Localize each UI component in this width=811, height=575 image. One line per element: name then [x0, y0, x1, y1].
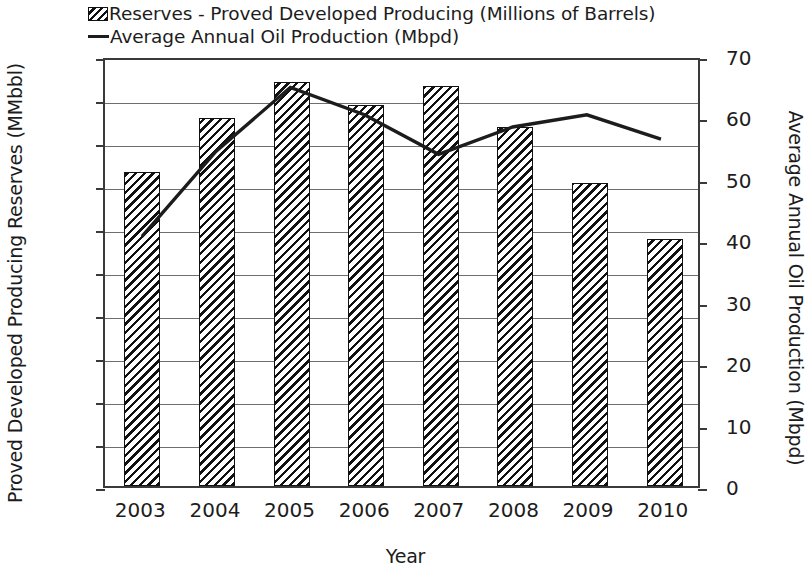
y-axis-right-tick-label: 50 — [726, 171, 796, 191]
gridline — [105, 318, 698, 319]
y-axis-right-tick-label: 20 — [726, 355, 796, 375]
gridline — [105, 361, 698, 362]
y-axis-right-tick — [698, 366, 707, 368]
line-series — [105, 60, 698, 486]
bar-2006 — [348, 105, 384, 486]
y-axis-left-tick — [96, 231, 105, 233]
y-axis-left-tick — [96, 360, 105, 362]
y-axis-right-tick-label: 60 — [726, 109, 796, 129]
y-axis-left-tick — [96, 403, 105, 405]
x-axis-tick-label-2006: 2006 — [324, 500, 404, 520]
bar-2010 — [647, 239, 683, 486]
y-axis-left-tick — [96, 446, 105, 448]
y-axis-right-tick — [698, 182, 707, 184]
y-axis-right-tick-label: 30 — [726, 294, 796, 314]
y-axis-left-tick — [96, 274, 105, 276]
bar-2005 — [274, 82, 310, 486]
y-axis-left-tick — [96, 102, 105, 104]
y-axis-left-tick — [96, 145, 105, 147]
y-axis-left-tick — [96, 59, 105, 61]
gridline — [105, 232, 698, 233]
gridline — [105, 189, 698, 190]
y-axis-right-tick — [698, 243, 707, 245]
bar-2004 — [199, 118, 235, 486]
chart-figure: Reserves - Proved Developed Producing (M… — [0, 0, 811, 575]
legend-item-reserves-label: Reserves - Proved Developed Producing (M… — [109, 3, 655, 24]
y-axis-right-tick-label: 10 — [726, 417, 796, 437]
x-axis-tick-label-2007: 2007 — [399, 500, 479, 520]
legend-item-production-label: Average Annual Oil Production (Mbpd) — [110, 26, 459, 47]
y-axis-right-tick — [698, 489, 707, 491]
chart-legend: Reserves - Proved Developed Producing (M… — [88, 2, 788, 48]
line-swatch-icon — [88, 30, 109, 44]
y-axis-left-tick — [96, 188, 105, 190]
x-axis-tick-label-2009: 2009 — [548, 500, 628, 520]
y-axis-right-tick-label: 70 — [726, 48, 796, 68]
y-axis-left-tick — [96, 489, 105, 491]
y-axis-right-tick — [698, 428, 707, 430]
legend-item-production: Average Annual Oil Production (Mbpd) — [88, 25, 788, 48]
y-axis-left-title: Proved Developed Producing Reserves (MMb… — [4, 73, 26, 503]
bar-2009 — [572, 183, 608, 486]
x-axis-tick-label-2010: 2010 — [623, 500, 703, 520]
legend-item-reserves: Reserves - Proved Developed Producing (M… — [88, 2, 788, 25]
hatched-bar-swatch-icon — [88, 7, 108, 21]
gridline — [105, 404, 698, 405]
y-axis-left-tick — [96, 317, 105, 319]
gridline — [105, 447, 698, 448]
y-axis-right-title: Average Annual Oil Production (Mbpd) — [785, 73, 807, 503]
y-axis-right-tick — [698, 59, 707, 61]
plot-area — [103, 58, 700, 488]
bar-2008 — [497, 127, 533, 486]
gridline — [105, 146, 698, 147]
bar-2003 — [124, 172, 160, 486]
x-axis-tick-label-2005: 2005 — [250, 500, 330, 520]
y-axis-right-tick — [698, 120, 707, 122]
gridline — [105, 103, 698, 104]
bar-2007 — [423, 86, 459, 486]
y-axis-right-tick — [698, 305, 707, 307]
x-axis-title: Year — [0, 545, 811, 567]
y-axis-right-tick-label: 0 — [726, 478, 796, 498]
x-axis-tick-label-2008: 2008 — [473, 500, 553, 520]
x-axis-tick-label-2003: 2003 — [100, 500, 180, 520]
x-axis-tick-label-2004: 2004 — [175, 500, 255, 520]
gridline — [105, 275, 698, 276]
y-axis-right-tick-label: 40 — [726, 232, 796, 252]
